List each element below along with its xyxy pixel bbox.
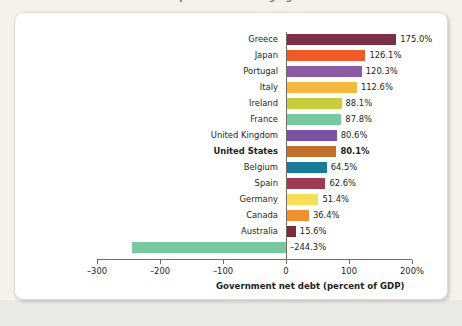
category-label: Italy [128,82,278,93]
category-label: France [128,114,278,125]
x-tick-label: –300 [87,266,107,276]
bar [286,34,396,45]
bar-value-label: 64.5% [331,162,358,173]
x-tick-label: –200 [150,266,170,276]
bar [286,130,337,141]
bar [286,82,357,93]
bar-value-label: 51.4% [322,194,349,205]
bar-value-label: 112.6% [361,82,393,93]
figure-stage: International comparison of average gove… [0,0,462,326]
x-axis-title: Government net debt (percent of GDP) [216,281,404,291]
category-label: United Kingdom [128,130,278,141]
x-tick [223,260,224,264]
bar [286,98,342,109]
bar [286,50,365,61]
chart-panel: GreeceJapanPortugalItalyIrelandFranceUni… [14,12,448,300]
bar-value-label: 120.3% [366,66,398,77]
bar-value-label: 175.0% [400,34,432,45]
bar [286,66,362,77]
bar [286,194,318,205]
category-label: Greece [128,34,278,45]
x-axis-line [97,259,412,260]
bar [286,226,296,237]
bar-value-label: 80.1% [340,146,369,157]
plot-area: GreeceJapanPortugalItalyIrelandFranceUni… [15,13,449,301]
category-label: Japan [128,50,278,61]
x-tick-label: 200% [400,266,424,276]
category-label: Spain [128,178,278,189]
x-tick-label: –100 [213,266,233,276]
bar [286,146,336,157]
bar-value-label: 15.6% [300,226,327,237]
x-tick [349,260,350,264]
bar [286,162,327,173]
x-tick [160,260,161,264]
bar-value-label: 88.1% [346,98,373,109]
bar [132,242,286,253]
category-label: Canada [128,210,278,221]
x-tick [412,260,413,264]
category-label: Australia [128,226,278,237]
bar-value-label: –244.3% [290,242,326,253]
bar-value-label: 87.8% [345,114,372,125]
zero-axis-line [286,32,287,259]
page-background-band [0,300,462,326]
x-tick [286,260,287,264]
bar [286,178,325,189]
category-label: Germany [128,194,278,205]
bar-value-label: 126.1% [369,50,401,61]
bar-value-label: 62.6% [329,178,356,189]
x-tick [97,260,98,264]
x-tick-label: 100 [341,266,357,276]
bar-value-label: 36.4% [313,210,340,221]
category-label: Ireland [128,98,278,109]
bar [286,114,341,125]
bar [286,210,309,221]
figure-title: International comparison of average gove… [0,0,462,2]
bar-value-label: 80.6% [341,130,368,141]
x-tick-label: 0 [283,266,288,276]
category-label: Portugal [128,66,278,77]
category-label: Belgium [128,162,278,173]
category-label: United States [128,146,278,157]
